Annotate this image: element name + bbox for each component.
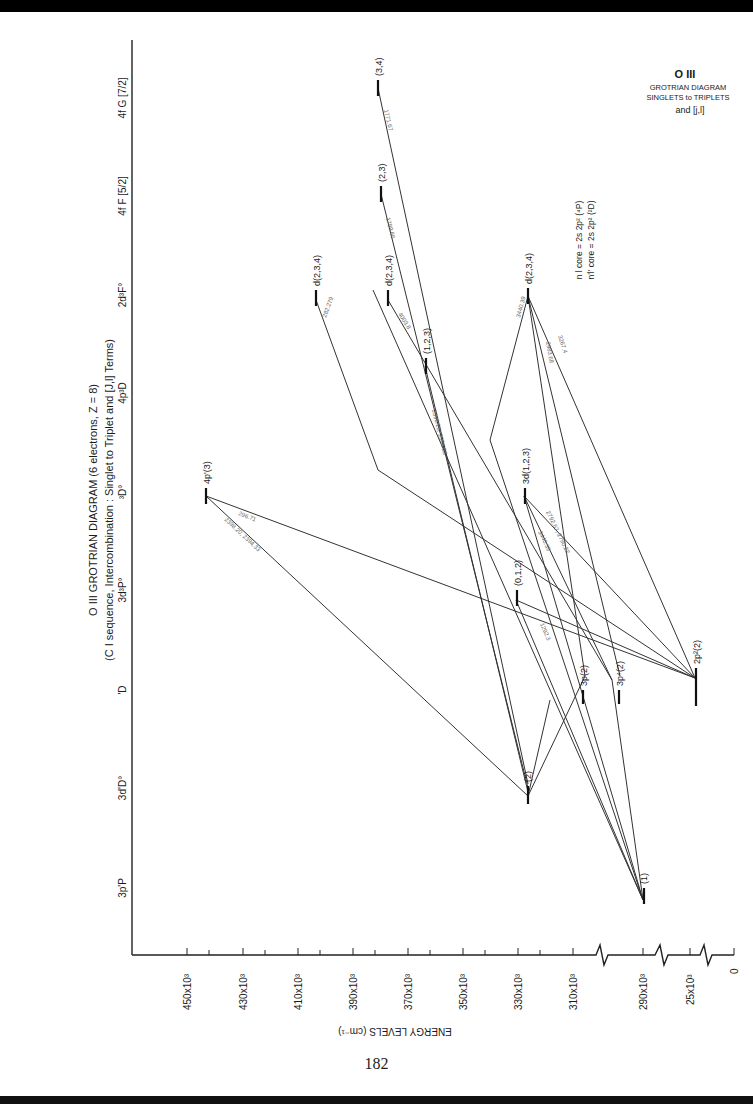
- level-label: d(2,3,4): [384, 255, 394, 286]
- wavelength-label: 296.71: [238, 510, 258, 522]
- energy-tick-labels: 450x10³ 430x10³ 410x10³ 390x10³ 370x10³ …: [182, 968, 740, 1010]
- level-label: (2): [523, 771, 533, 782]
- wavelength-label: 1789.66: [385, 217, 396, 240]
- wavelength-label: 3267.4: [557, 334, 569, 354]
- tick-label: 410x10³: [293, 973, 304, 1010]
- column-label: 4f G [7/2]: [117, 77, 128, 118]
- energy-axis-line: [132, 945, 734, 965]
- column-label: ³D°: [117, 485, 128, 500]
- tick-label: 290x10³: [638, 973, 649, 1010]
- level-label: 3d(1,2,3): [521, 448, 531, 484]
- legend-line: GROTRIAN DIAGRAM: [650, 83, 727, 92]
- core-note-nl-prime: n'l' core = 2s 2p² (²D): [586, 200, 596, 279]
- level-label: (3,4): [374, 57, 384, 76]
- level-label: d(2,3,4): [312, 255, 322, 286]
- column-label: 3p'P: [117, 878, 128, 898]
- legend-ion: O III: [675, 68, 696, 80]
- level-labels: (1) (2) 3p(2) 3p⁴(2) 2p²(2) (0,1,2) 3d(1…: [202, 57, 702, 884]
- level-label: 3p⁴(2): [615, 661, 625, 686]
- level-label: (0,1,2): [513, 560, 523, 586]
- term-column-labels: 3p'P 3d'D° 'D 3d³P° ³D° 4p³D 2d³F° 4f F …: [117, 77, 128, 898]
- legend-line: SINGLETS to TRIPLETS: [646, 93, 729, 102]
- diagram-title: O III GROTRIAN DIAGRAM (6 electrons, Z =…: [87, 384, 99, 616]
- tick-label: 430x10³: [238, 973, 249, 1010]
- tick-label: 0: [729, 968, 740, 974]
- level-label: (2,3): [377, 163, 387, 182]
- column-label: 3d³P°: [117, 577, 128, 602]
- level-label: 4p'(3): [202, 461, 212, 484]
- diagram-subtitle: (C I sequence, Intercombination : Single…: [103, 339, 115, 661]
- wavelength-label: 2398.20, 2394.33: [431, 409, 448, 456]
- wavelength-label: 1292.3: [539, 622, 552, 642]
- column-label: 3d'D°: [117, 776, 128, 800]
- tick-label: 390x10³: [348, 973, 359, 1010]
- tick-label: 25x10³: [685, 974, 696, 1005]
- level-label: 3p(2): [579, 665, 589, 686]
- level-label: (1): [639, 873, 649, 884]
- core-note-nl: n l core = 2s 2p² (⁴P): [574, 201, 584, 280]
- level-label: d(2,3,4): [524, 253, 534, 284]
- column-label: 4f F [5/2]: [117, 176, 128, 216]
- column-label: 4p³D: [117, 382, 128, 404]
- level-label: (1,2,3): [422, 328, 432, 354]
- level-label: 2p²(2): [692, 640, 702, 664]
- wavelength-label: 282.279: [321, 295, 334, 318]
- tick-label: 310x10³: [568, 973, 579, 1010]
- legend-block: O III GROTRIAN DIAGRAM SINGLETS to TRIPL…: [646, 68, 729, 115]
- tick-label: 330x10³: [513, 973, 524, 1010]
- column-label: 'D: [117, 685, 128, 694]
- tick-label: 450x10³: [182, 973, 193, 1010]
- tick-label: 350x10³: [458, 973, 469, 1010]
- page-number: 182: [0, 1055, 753, 1073]
- energy-levels: [206, 80, 696, 904]
- wavelength-label: 2983.68: [545, 341, 555, 364]
- column-label: 2d³F°: [117, 283, 128, 308]
- scan-border-bottom: [0, 1096, 753, 1104]
- grotrian-diagram: 450x10³ 430x10³ 410x10³ 390x10³ 370x10³ …: [0, 0, 753, 1104]
- tick-label: 370x10³: [403, 973, 414, 1010]
- legend-line: and [j,l]: [675, 105, 704, 115]
- energy-axis-title: ENERGY LEVELS (cm⁻¹): [338, 1026, 452, 1037]
- transition-lines: [206, 88, 695, 900]
- wavelength-label: 2398.20, 2394.33: [223, 516, 262, 553]
